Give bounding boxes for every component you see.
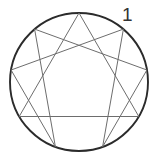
enneagram-hexad xyxy=(11,29,147,147)
point-label-1: 1 xyxy=(122,5,133,24)
enneagram-circle xyxy=(10,13,148,151)
enneagram-figure: 1 xyxy=(0,0,157,163)
enneagram-inner-triangle xyxy=(19,13,139,117)
enneagram-canvas xyxy=(0,0,157,163)
